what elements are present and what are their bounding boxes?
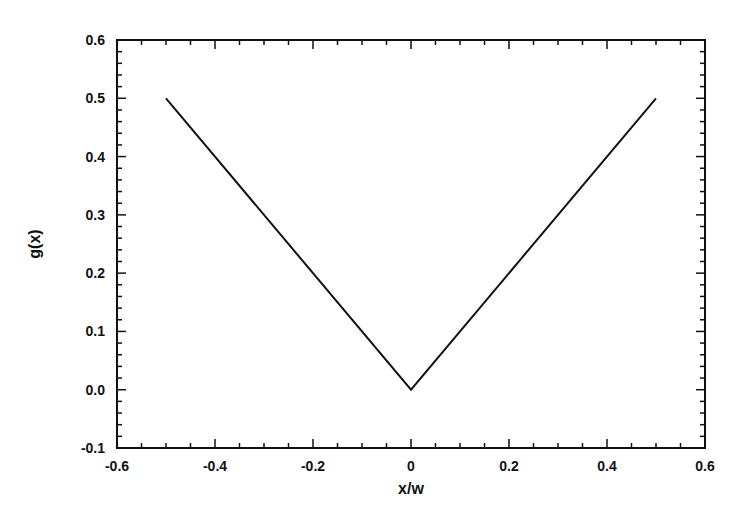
y-tick-label: 0.0 bbox=[86, 382, 106, 398]
y-tick-label: -0.1 bbox=[81, 440, 105, 456]
x-tick-label: 0.4 bbox=[597, 458, 617, 474]
x-tick-labels: -0.6-0.4-0.200.20.40.6 bbox=[105, 458, 715, 474]
y-tick-label: 0.1 bbox=[86, 323, 106, 339]
plot-frame bbox=[117, 40, 705, 448]
y-tick-label: 0.2 bbox=[86, 265, 106, 281]
y-tick-label: 0.4 bbox=[86, 149, 106, 165]
x-axis-label: x/w bbox=[398, 480, 424, 497]
x-tick-label: -0.2 bbox=[301, 458, 325, 474]
x-tick-label: 0.6 bbox=[695, 458, 715, 474]
y-axis-label: g(x) bbox=[26, 229, 43, 258]
axis-ticks bbox=[117, 40, 705, 448]
x-tick-label: 0 bbox=[407, 458, 415, 474]
y-tick-label: 0.3 bbox=[86, 207, 106, 223]
chart: -0.6-0.4-0.200.20.40.6 -0.10.00.10.20.30… bbox=[0, 0, 756, 522]
y-tick-label: 0.5 bbox=[86, 90, 106, 106]
x-tick-label: -0.4 bbox=[203, 458, 227, 474]
x-tick-label: 0.2 bbox=[499, 458, 519, 474]
y-tick-label: 0.6 bbox=[86, 32, 106, 48]
series-line-g-of-x bbox=[166, 98, 656, 389]
x-tick-label: -0.6 bbox=[105, 458, 129, 474]
y-tick-labels: -0.10.00.10.20.30.40.50.6 bbox=[81, 32, 105, 456]
